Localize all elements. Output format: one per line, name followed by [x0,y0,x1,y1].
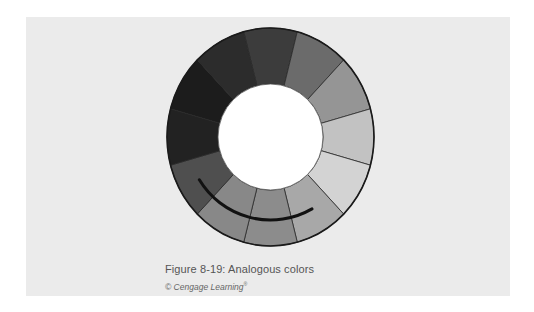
credit-text: © Cengage Learning [165,282,244,292]
registered-mark: ® [244,281,248,287]
figure-credit: © Cengage Learning® [165,281,247,292]
figure-caption: Figure 8-19: Analogous colors [165,263,314,275]
color-wheel-center [218,84,323,190]
